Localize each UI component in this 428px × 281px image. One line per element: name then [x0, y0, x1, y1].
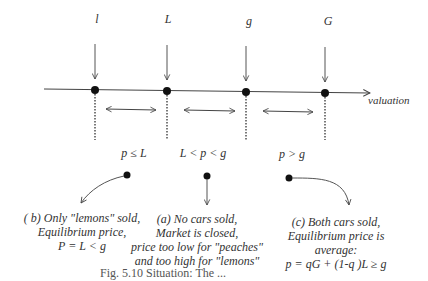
outcome-a-line1: (a) No cars sold,: [131, 212, 263, 226]
outcome-c-line2: Equilibrium price is: [286, 229, 387, 243]
outcome-c: (c) Both cars sold, Equilibrium price is…: [286, 215, 387, 271]
figure-caption: Fig. 5.10 Situation: The ...: [100, 266, 226, 281]
outcome-c-line1: (c) Both cars sold,: [286, 215, 387, 229]
outcome-b-line2: Equilibrium price,: [24, 225, 140, 239]
point-L: [163, 87, 171, 95]
outcome-dot-a: [204, 173, 211, 180]
interval-arrow-icon: [184, 110, 235, 111]
axis-label: valuation: [368, 94, 410, 106]
outcome-b: ( b) Only "lemons" sold, Equilibrium pri…: [24, 211, 140, 253]
point-label-l: l: [95, 12, 98, 27]
outcome-a-line3: price too low for "peaches": [131, 240, 263, 254]
outcome-dot-c: [286, 175, 293, 182]
point-label-g: g: [246, 14, 252, 29]
outcome-c-line4: p = qG + (1-q )L ≥ g: [286, 257, 387, 271]
interval-arrow-icon: [106, 109, 156, 110]
point-g: [242, 88, 250, 96]
outcome-b-line3: P = L < g: [24, 239, 140, 253]
interval-arrow-icon: [263, 111, 313, 112]
outcome-dot-b: [124, 172, 131, 179]
point-label-G: G: [324, 14, 333, 29]
curved-arrow-icon: [81, 176, 124, 203]
point-G: [321, 89, 329, 97]
region-label-high: p > g: [279, 147, 305, 162]
outcome-a-line2: Market is closed,: [131, 226, 263, 240]
outcome-a: (a) No cars sold, Market is closed, pric…: [131, 212, 263, 268]
point-l: [91, 86, 99, 94]
region-label-mid: L < p < g: [180, 146, 227, 161]
curved-arrow-icon: [292, 178, 349, 205]
outcome-c-line3: average:: [286, 243, 387, 257]
outcome-b-line1: ( b) Only "lemons" sold,: [24, 211, 140, 225]
region-label-low: p ≤ L: [121, 146, 146, 161]
point-label-L: L: [165, 12, 172, 27]
